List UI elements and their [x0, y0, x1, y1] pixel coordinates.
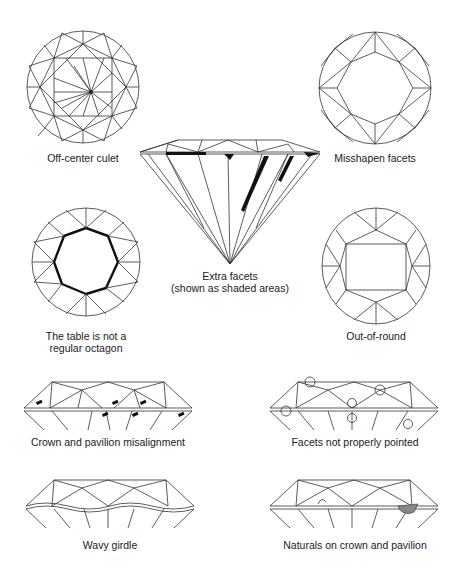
caption-off-center-culet: Off-center culet — [28, 152, 138, 164]
off-center-culet-drawing — [24, 28, 142, 146]
misshapen-facets-drawing — [317, 30, 433, 146]
caption-extra-facets-line1: Extra facets — [170, 270, 290, 282]
out-of-round-drawing — [320, 206, 432, 326]
figure-out-of-round — [320, 206, 432, 326]
caption-table-line2: regular octagon — [30, 342, 142, 354]
figure-extra-facets — [138, 148, 322, 268]
figure-crown-pavilion-misalignment — [22, 378, 194, 428]
facets-not-pointed-drawing — [268, 378, 440, 428]
caption-table-line1: The table is not a — [30, 330, 142, 342]
caption-naturals: Naturals on crown and pavilion — [270, 539, 440, 551]
caption-out-of-round: Out-of-round — [320, 330, 432, 342]
caption-table-not-octagon: The table is not a regular octagon — [30, 330, 142, 354]
caption-extra-facets-line2: (shown as shaded areas) — [170, 282, 290, 294]
extra-facets-drawing — [138, 148, 322, 268]
misalignment-drawing — [22, 378, 194, 428]
naturals-drawing — [268, 476, 440, 526]
caption-misalignment: Crown and pavilion misalignment — [18, 436, 198, 448]
caption-facets-not-pointed: Facets not properly pointed — [270, 436, 440, 448]
figure-off-center-culet — [24, 28, 142, 146]
table-not-octagon-drawing — [30, 206, 142, 318]
figure-facets-not-pointed — [268, 378, 440, 428]
caption-wavy-girdle: Wavy girdle — [60, 539, 160, 551]
figure-misshapen-facets — [317, 30, 433, 146]
figure-table-not-octagon — [30, 206, 142, 318]
figure-wavy-girdle — [24, 476, 196, 526]
caption-misshapen-facets: Misshapen facets — [320, 152, 430, 164]
figure-naturals — [268, 476, 440, 526]
wavy-girdle-drawing — [24, 476, 196, 526]
caption-extra-facets: Extra facets (shown as shaded areas) — [170, 270, 290, 294]
